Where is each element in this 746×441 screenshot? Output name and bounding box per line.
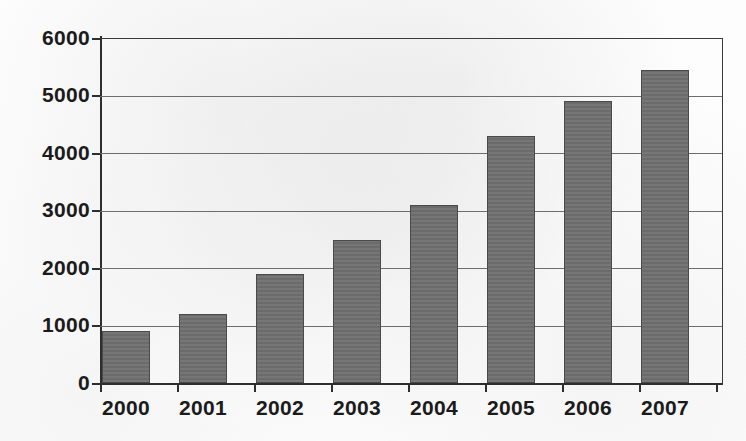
y-tick-label-5000: 5000 <box>16 83 90 107</box>
x-tick-mark-3 <box>331 383 333 392</box>
bar-2000 <box>102 331 150 383</box>
bar-2003 <box>333 240 381 383</box>
x-tick-mark-0 <box>100 383 102 392</box>
bar-2006 <box>564 101 612 383</box>
gridline-4000 <box>100 153 722 154</box>
x-tick-mark-6 <box>562 383 564 392</box>
y-tick-label-4000: 4000 <box>16 141 90 165</box>
x-tick-mark-8 <box>716 383 718 392</box>
y-tick-label-2000: 2000 <box>16 256 90 280</box>
x-tick-mark-7 <box>639 383 641 392</box>
bar-2004 <box>410 205 458 383</box>
gridline-6000 <box>100 38 722 39</box>
y-tick-label-1000: 1000 <box>16 313 90 337</box>
bar-2005 <box>487 136 535 383</box>
plot-area <box>100 38 722 383</box>
gridline-0-baseline <box>100 383 722 385</box>
bar-2007 <box>641 70 689 383</box>
plot-right-frame <box>722 38 723 385</box>
bar-2001 <box>179 314 227 383</box>
y-tick-label-0: 0 <box>16 371 90 395</box>
y-axis-tick-labels: 6000 5000 4000 3000 2000 1000 0 <box>8 0 90 441</box>
gridline-5000 <box>100 96 722 97</box>
bar-2002 <box>256 274 304 383</box>
bar-chart-figure: 6000 5000 4000 3000 2000 1000 0 <box>0 0 746 441</box>
y-tick-label-6000: 6000 <box>16 26 90 50</box>
x-tick-mark-2 <box>254 383 256 392</box>
x-tick-label-2007: 2007 <box>620 396 710 420</box>
x-tick-mark-5 <box>485 383 487 392</box>
x-tick-mark-4 <box>408 383 410 392</box>
y-tick-label-3000: 3000 <box>16 198 90 222</box>
x-tick-mark-1 <box>177 383 179 392</box>
